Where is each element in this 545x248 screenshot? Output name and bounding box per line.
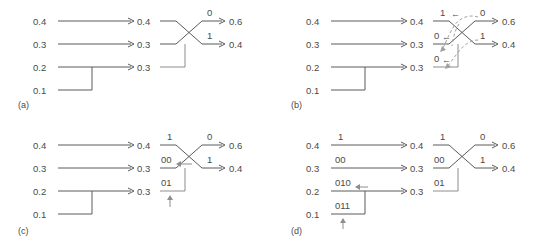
panel-d-stage1-code-3: 011 — [335, 200, 350, 211]
panel-a-stage2-prob-2: 0.3 — [137, 62, 150, 73]
panel-d-caption: (d) — [291, 226, 302, 236]
panel-d-left-arrow-line — [355, 184, 368, 190]
panel-a-caption: (a) — [18, 100, 29, 110]
panel-a: 0.4 0.3 0.2 0.1 0.4 0.3 0.3 0 1 0.6 0.4 … — [0, 0, 272, 124]
panel-c-merge-bracket — [58, 191, 92, 214]
panel-c-stage3-prob-0: 0.6 — [229, 140, 242, 151]
panel-d-stage2-prob-0: 0.4 — [410, 140, 423, 151]
panel-c-stage3-prob-1: 0.4 — [229, 163, 242, 174]
panel-a-stage1-prob-2: 0.2 — [33, 62, 46, 73]
panel-d-stage2-code-1: 00 — [434, 154, 445, 165]
panel-c-stage2-prob-0: 0.4 — [137, 140, 150, 151]
panel-c-bit-0: 0 — [207, 131, 212, 142]
panel-a-merge-bracket — [58, 67, 92, 90]
panel-a-stage2-prob-1: 0.3 — [137, 39, 150, 50]
panel-c-stage1-prob-3: 0.1 — [33, 209, 46, 220]
panel-b-stage3-prob-1: 0.4 — [502, 39, 515, 50]
panel-a-stage1-arrows — [58, 18, 134, 70]
panel-d-bit-1: 1 — [480, 154, 485, 165]
panel-a-stage2-prob-0: 0.4 — [137, 16, 150, 27]
panel-c-stage1-prob-0: 0.4 — [33, 140, 46, 151]
panel-b-arrow-left-1: ← — [442, 32, 451, 42]
panel-d-stage3-prob-1: 0.4 — [502, 163, 515, 174]
panel-d-up-pointer — [340, 218, 346, 229]
panel-a-stage3-prob-0: 0.6 — [229, 16, 242, 27]
panel-c-caption: (c) — [18, 226, 29, 236]
panel-b-stage2-code-1: 0 — [434, 30, 439, 41]
panel-d-stage1-prob-0: 0.4 — [306, 140, 319, 151]
panel-b-stage1-arrows — [331, 18, 407, 70]
panel-b-stage2-prob-0: 0.4 — [410, 16, 423, 27]
panel-c-up-pointer — [167, 195, 173, 207]
panel-b-stage3-prob-0: 0.6 — [502, 16, 515, 27]
panel-b-merge-bracket — [331, 67, 365, 90]
panel-d-stage2-code-2: 01 — [434, 177, 445, 188]
panel-c-stage2-code-2: 01 — [161, 177, 172, 188]
panel-a-bit-1: 1 — [207, 30, 212, 41]
panel-c-stage2-prob-2: 0.3 — [137, 186, 150, 197]
panel-c-stage2-code-0: 1 — [167, 131, 172, 142]
panel-c-stage2-prob-1: 0.3 — [137, 163, 150, 174]
panel-d-stage3-prob-0: 0.6 — [502, 140, 515, 151]
panel-c-stage1-arrows — [58, 142, 134, 194]
panel-a-stage3-prob-1: 0.4 — [229, 39, 242, 50]
panel-b: 1 ← 0 ← 0 ← 0.4 0.3 0.2 0.1 0.4 0.3 0.3 … — [273, 0, 545, 124]
panel-c-stage2-code-1: 00 — [161, 154, 172, 165]
huffman-figure: 0.4 0.3 0.2 0.1 0.4 0.3 0.3 0 1 0.6 0.4 … — [0, 0, 545, 248]
panel-d-stage1-code-2: 010 — [335, 177, 351, 188]
panel-a-stage1-prob-1: 0.3 — [33, 39, 46, 50]
panel-c: 1 00 01 0.4 0.3 0.2 0.1 0.4 0.3 0.3 0 1 … — [0, 124, 272, 248]
panel-b-stage1-prob-2: 0.2 — [306, 62, 319, 73]
panel-c-stage1-prob-2: 0.2 — [33, 186, 46, 197]
panel-d-stage1-code-1: 00 — [335, 154, 346, 165]
panel-a-crossing — [160, 18, 225, 67]
panel-a-stage1-prob-0: 0.4 — [33, 16, 46, 27]
panel-b-stage1-prob-0: 0.4 — [306, 16, 319, 27]
panel-d-stage1-prob-1: 0.3 — [306, 163, 319, 174]
panel-d-stage2-prob-2: 0.3 — [410, 186, 423, 197]
panel-b-arrow-left-2: ← — [442, 55, 451, 65]
panel-d-bit-0: 0 — [480, 131, 485, 142]
panel-d-stage2-code-0: 1 — [440, 131, 445, 142]
panel-b-stage2-code-0: 1 — [440, 7, 445, 18]
panel-d-stage1-prob-3: 0.1 — [306, 209, 319, 220]
panel-a-stage1-prob-3: 0.1 — [33, 85, 46, 96]
panel-d: 1 00 010 011 1 00 01 0.4 0.3 0.2 0.1 0.4… — [273, 124, 545, 248]
panel-d-stage1-prob-2: 0.2 — [306, 186, 319, 197]
panel-b-bit-0: 0 — [480, 7, 485, 18]
panel-b-caption: (b) — [291, 100, 302, 110]
panel-b-stage2-prob-1: 0.3 — [410, 39, 423, 50]
panel-b-stage2-code-2: 0 — [434, 53, 439, 64]
panel-c-bit-1: 1 — [207, 154, 212, 165]
panel-d-stage2-prob-1: 0.3 — [410, 163, 423, 174]
panel-b-stage1-prob-1: 0.3 — [306, 39, 319, 50]
panel-c-stage1-prob-1: 0.3 — [33, 163, 46, 174]
panel-b-stage1-prob-3: 0.1 — [306, 85, 319, 96]
panel-b-arrow-left-0: ← — [451, 9, 460, 19]
panel-b-stage2-prob-2: 0.3 — [410, 62, 423, 73]
panel-a-bit-0: 0 — [207, 7, 212, 18]
panel-b-bit-1: 1 — [480, 30, 485, 41]
panel-d-stage1-code-0: 1 — [338, 131, 343, 142]
